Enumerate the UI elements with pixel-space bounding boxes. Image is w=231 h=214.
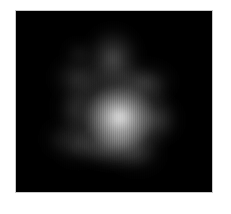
intensity-blob-left-mid-spur	[58, 86, 90, 130]
figure-frame	[15, 10, 213, 193]
intensity-blob-lower-core-skirt	[91, 118, 152, 162]
intensity-blob-lower-right-extension	[113, 138, 161, 170]
edge-vignette	[16, 11, 212, 192]
scanline-noise-overlay	[16, 11, 212, 192]
intensity-blob-lower-left-tip	[47, 125, 73, 151]
intensity-blob-bright-core	[86, 86, 155, 149]
screenshot-root	[0, 0, 231, 214]
intensity-blob-lower-bridge	[79, 134, 132, 162]
intensity-blob-right-faint-knot	[144, 83, 162, 97]
intensity-blob-core-halo	[64, 68, 169, 165]
intensity-blob-right-lobe	[137, 100, 177, 140]
intensity-blob-upper-right-arm	[115, 65, 172, 99]
intensity-blob-lower-left-tail	[56, 127, 100, 161]
intensity-blob-detached-knot	[67, 44, 91, 62]
intensity-blob-upper-ridge	[87, 29, 140, 90]
image-field	[16, 11, 212, 192]
intensity-blob-upper-left-shoulder	[54, 59, 102, 97]
